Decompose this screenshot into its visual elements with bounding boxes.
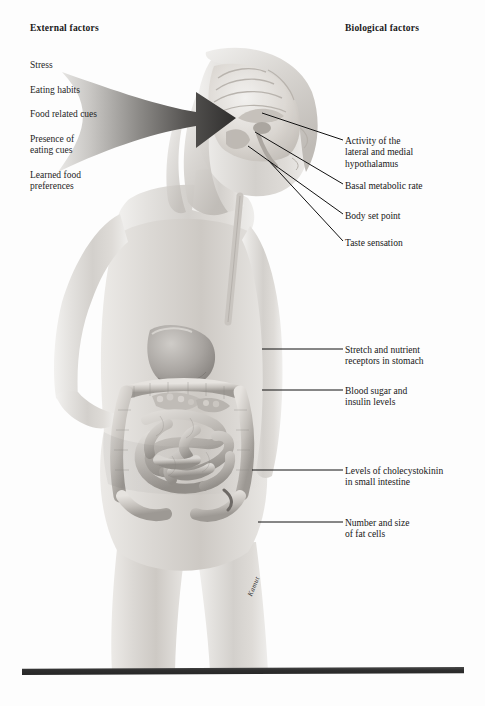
external-factor-item: Eating habits: [30, 85, 135, 97]
biological-factor-label: Stretch and nutrientreceptors in stomach: [345, 345, 480, 368]
biological-factor-label: Number and sizeof fat cells: [345, 518, 480, 541]
external-factor-item: Learned foodpreferences: [30, 170, 135, 193]
biological-factor-label: Basal metabolic rate: [345, 181, 480, 192]
heading-biological-factors: Biological factors: [345, 23, 419, 33]
external-factor-item: Food related cues: [30, 109, 135, 121]
external-factor-item: Presence ofeating cues: [30, 134, 135, 157]
biological-factor-label: Taste sensation: [345, 238, 480, 249]
heading-external-factors: External factors: [30, 23, 99, 33]
figure-canvas: External factors Biological factors Stre…: [0, 0, 485, 706]
biological-factor-label: Body set point: [345, 211, 480, 222]
leader-line-taste-sensation: [268, 160, 343, 241]
biological-factor-label: Levels of cholecystokininin small intest…: [345, 466, 480, 489]
external-factors-list: StressEating habitsFood related cuesPres…: [30, 60, 135, 206]
biological-factor-label: Blood sugar andinsulin levels: [345, 386, 480, 409]
external-factor-item: Stress: [30, 60, 135, 72]
biological-factor-label: Activity of thelateral and medialhypotha…: [345, 136, 480, 170]
